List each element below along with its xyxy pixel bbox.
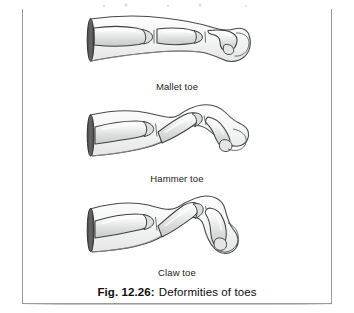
- hammer-toe-illustration: [78, 101, 268, 171]
- figure-caption-text: Deformities of toes: [159, 286, 257, 298]
- panel-claw-toe: Claw toe: [23, 193, 331, 285]
- mallet-toe-illustration: [78, 11, 268, 79]
- panel-mallet-toe: Mallet toe: [23, 11, 331, 99]
- figure-caption-number: Fig. 12.26:: [97, 286, 154, 298]
- panel-hammer-toe: Hammer toe: [23, 101, 331, 191]
- scan-bottom-rule: [20, 304, 338, 305]
- panel-label-claw-toe: Claw toe: [23, 267, 331, 278]
- panel-label-mallet-toe: Mallet toe: [23, 81, 331, 92]
- claw-toe-illustration: [78, 193, 268, 267]
- figure-caption: Fig. 12.26:Deformities of toes: [23, 286, 331, 298]
- panel-label-hammer-toe: Hammer toe: [23, 173, 331, 184]
- figure-frame: Mallet toe: [22, 9, 332, 304]
- scan-top-text-bleed: [96, 0, 276, 7]
